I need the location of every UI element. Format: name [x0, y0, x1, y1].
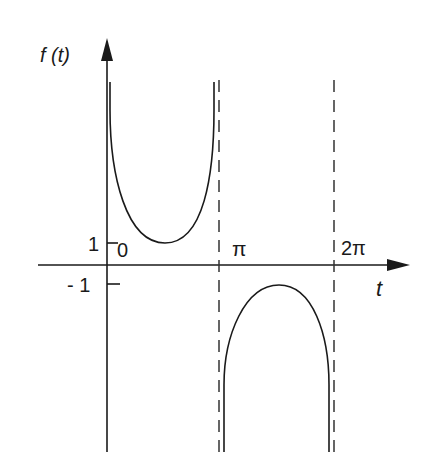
tick-label-neg-one: - 1 — [67, 275, 90, 295]
tick-label-2pi: 2π — [341, 238, 366, 258]
x-axis-arrow-icon — [387, 259, 410, 271]
tick-label-pi: π — [232, 238, 247, 259]
tick-label-one: 1 — [88, 234, 99, 254]
chart-canvas — [0, 0, 428, 471]
curve-branch-upper — [110, 82, 214, 243]
x-axis-label: t — [376, 278, 382, 300]
tick-label-zero: 0 — [117, 240, 128, 260]
csc-chart: f (t) t 0 π 2π 1 - 1 — [0, 0, 428, 471]
y-axis-label: f (t) — [40, 45, 70, 65]
y-axis-arrow-icon — [101, 38, 113, 61]
curve-branch-lower — [224, 285, 329, 452]
